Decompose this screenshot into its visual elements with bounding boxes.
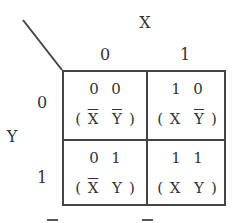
cropped-caption-remnant xyxy=(0,0,234,223)
